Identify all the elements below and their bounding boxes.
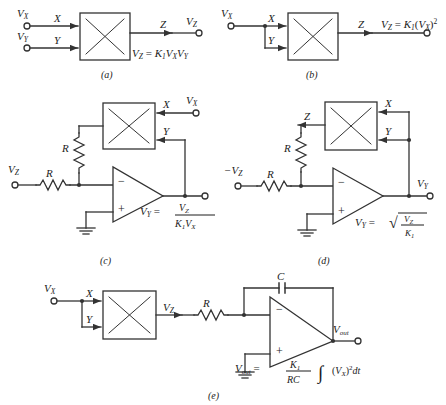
equation-d-numerator: VZ [404, 214, 414, 225]
equation-c-denominator: K1VX [174, 218, 196, 231]
label-vz-a: VZ [186, 15, 198, 29]
resistor-input-d [257, 181, 291, 191]
equation-c-numerator: VZ [179, 202, 189, 215]
caption-d: (d) [318, 255, 330, 267]
label-vx-e: VX [44, 282, 56, 296]
junction-sum-c [77, 183, 81, 187]
junction-in-e [80, 299, 84, 303]
junction-out-c [183, 194, 187, 198]
label-resistor-input-d: R [266, 168, 274, 180]
label-port-y-e: Y [86, 313, 94, 325]
terminal-vz-d[interactable] [235, 183, 241, 189]
opamp-plus-c: + [118, 202, 125, 216]
label-port-z-b: Z [358, 18, 365, 30]
junction-y-d [407, 138, 411, 142]
opamp-minus-c: − [118, 174, 125, 188]
label-vy-a: VY [17, 30, 29, 44]
equation-e-integral: ∫ [317, 362, 325, 385]
terminal-vz-a[interactable] [196, 30, 202, 36]
equation-e-integrand: (VX)2dt [332, 364, 361, 378]
label-capacitor-e: C [277, 270, 285, 282]
equation-e-numerator: K1 [289, 359, 300, 372]
label-vz-c: VZ [8, 163, 20, 177]
junction-b [263, 24, 267, 28]
equation-e-denominator: RC [286, 374, 300, 385]
terminal-vout-e[interactable] [355, 338, 361, 344]
opamp-plus-e: + [276, 344, 283, 358]
caption-e: (e) [208, 390, 220, 402]
label-port-x-b: X [267, 12, 276, 24]
label-vout-e: Vout [333, 323, 350, 337]
equation-c-lhs: VY = [140, 205, 160, 219]
opamp-minus-d: − [338, 175, 345, 189]
figure-container: VX X VY Y Z VZ VZ = K1VXVY (a) VX X Y Z … [0, 0, 446, 405]
equation-d-denominator: K1 [404, 228, 414, 239]
equation-a: VZ = K1VXVY [132, 47, 189, 61]
label-vy-d: VY [417, 177, 429, 191]
junction-sum-d [299, 184, 303, 188]
resistor-feedback-d [296, 133, 306, 172]
resistor-input-e [194, 310, 228, 320]
label-port-y-d: Y [385, 125, 393, 137]
terminal-vx-a[interactable] [24, 23, 30, 29]
terminal-vy-c[interactable] [202, 193, 208, 199]
circuit-diagram: VX X VY Y Z VZ VZ = K1VXVY (a) VX X Y Z … [0, 0, 446, 405]
equation-d-radical: √ [389, 214, 398, 231]
terminal-vx-b[interactable] [228, 23, 234, 29]
caption-c: (c) [100, 255, 112, 267]
label-port-x-e: X [85, 287, 94, 299]
resistor-feedback-c [74, 133, 84, 173]
label-port-z-d: Z [304, 110, 311, 122]
junction-out-d [407, 194, 411, 198]
label-vx-b: VX [221, 7, 233, 21]
label-vz-e: VZ [163, 301, 175, 315]
label-vx-c: VX [186, 94, 198, 108]
terminal-vy-d[interactable] [427, 193, 433, 199]
caption-a: (a) [101, 69, 113, 81]
terminal-vz-c[interactable] [12, 182, 18, 188]
caption-b: (b) [306, 69, 318, 81]
opamp-minus-e: − [276, 302, 283, 316]
label-resistor-feedback-c: R [61, 142, 69, 154]
label-vx-a: VX [17, 7, 29, 21]
terminal-vx-e[interactable] [51, 298, 57, 304]
label-port-y-a: Y [54, 34, 62, 46]
label-port-z-a: Z [160, 18, 167, 30]
label-resistor-input-c: R [45, 167, 53, 179]
panel-c [12, 103, 208, 234]
terminal-vx-c[interactable] [193, 110, 199, 116]
equation-e-lhs: Vout = [235, 362, 260, 376]
label-resistor-feedback-d: R [283, 142, 291, 154]
label-port-x-c: X [162, 98, 171, 110]
equation-b: VZ = K1(VX)2 [381, 17, 437, 32]
terminal-vy-a[interactable] [24, 45, 30, 51]
label-vz-d: −VZ [224, 164, 243, 178]
label-port-x-d: X [384, 97, 393, 109]
resistor-input-c [36, 180, 70, 190]
opamp-plus-d: + [338, 204, 345, 218]
junction-out-e [331, 339, 335, 343]
label-port-y-c: Y [163, 125, 171, 137]
label-port-y-b: Y [268, 34, 276, 46]
equation-d-lhs: VY = [355, 216, 375, 230]
label-resistor-e: R [202, 297, 210, 309]
label-port-x-a: X [53, 12, 62, 24]
